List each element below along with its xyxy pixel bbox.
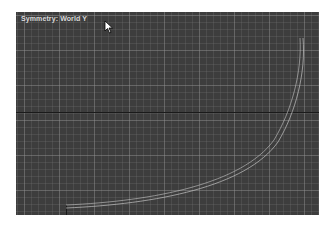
- 3d-viewport[interactable]: Symmetry: World Y: [16, 12, 319, 215]
- curve-object[interactable]: [16, 12, 319, 215]
- arrow-pointer-icon: [104, 20, 114, 34]
